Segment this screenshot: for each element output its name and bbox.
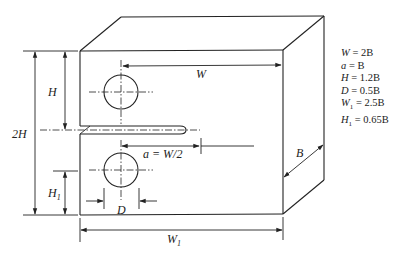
equation-H: H = 1.2B bbox=[341, 72, 389, 85]
dimension-B bbox=[284, 145, 323, 177]
label-2H: 2H bbox=[12, 127, 28, 141]
label-H: H bbox=[47, 85, 58, 99]
upper-pin-hole bbox=[89, 60, 153, 124]
label-W: W bbox=[196, 67, 207, 81]
dimension-a bbox=[122, 138, 254, 154]
label-B: B bbox=[296, 146, 304, 160]
label-H1: H1 bbox=[47, 186, 61, 202]
dimension-W1 bbox=[80, 217, 283, 242]
dimension-W bbox=[123, 65, 281, 66]
equation-D: D = 0.5B bbox=[341, 85, 389, 98]
equations-list: W = 2B a = B H = 1.2B D = 0.5B W1 = 2.5B… bbox=[341, 47, 389, 131]
equation-W: W = 2B bbox=[341, 47, 389, 60]
equation-H1: H1 = 0.65B bbox=[341, 114, 389, 131]
label-W1: W1 bbox=[167, 232, 181, 248]
label-crack-length: a = W/2 bbox=[143, 147, 182, 161]
specimen-block bbox=[80, 16, 324, 215]
notch bbox=[40, 126, 200, 134]
equation-a: a = B bbox=[341, 60, 389, 73]
label-D: D bbox=[116, 203, 126, 217]
equation-W1: W1 = 2.5B bbox=[341, 97, 389, 114]
